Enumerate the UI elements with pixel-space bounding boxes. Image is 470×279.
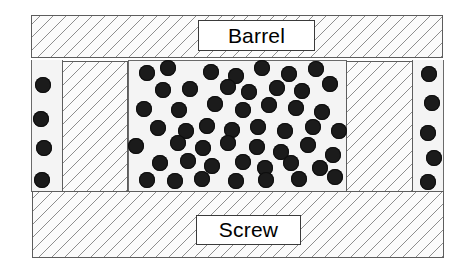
screw-label-text: Screw (219, 218, 278, 242)
barrel-label-text: Barrel (228, 24, 285, 48)
pellet (249, 139, 265, 155)
pellet (314, 104, 330, 120)
pellet (152, 155, 168, 171)
pellet (235, 102, 251, 118)
pellet (283, 155, 299, 171)
pellet (36, 140, 52, 156)
pellet (331, 123, 347, 139)
pellet (199, 118, 215, 134)
pellet (160, 60, 176, 76)
extruder-cross-section-figure: Barrel Screw (0, 0, 470, 279)
pellet (203, 64, 219, 80)
pellet (254, 60, 270, 76)
pellet (291, 171, 307, 187)
pellet (167, 173, 183, 189)
barrel-label: Barrel (198, 20, 315, 51)
pellet (180, 153, 196, 169)
pellet (136, 101, 152, 117)
pellet (281, 66, 297, 82)
pellet (34, 172, 50, 188)
pellet (220, 79, 236, 95)
pellet (194, 171, 210, 187)
pellet (327, 169, 343, 185)
pellet (305, 119, 321, 135)
pellet (426, 150, 442, 166)
pellet (128, 138, 144, 154)
pellet (171, 102, 187, 118)
pellet (182, 81, 198, 97)
pellet (150, 120, 166, 136)
screw-label: Screw (196, 215, 301, 245)
pellet (294, 83, 310, 99)
pellet (250, 119, 266, 135)
pellet (424, 95, 440, 111)
pellet (155, 82, 171, 98)
pellet (420, 125, 436, 141)
pellet (300, 137, 316, 153)
pellet (308, 61, 324, 77)
pellet (220, 135, 236, 151)
pellet (277, 123, 293, 139)
pellet (261, 97, 277, 113)
pellet (207, 96, 223, 112)
pellet (420, 174, 436, 190)
pellet (170, 135, 186, 151)
pellet (269, 80, 285, 96)
pellet (312, 160, 328, 176)
pellet (241, 84, 257, 100)
pellet (33, 111, 49, 127)
pellet (288, 100, 304, 116)
pellet (421, 66, 437, 82)
pellet (139, 172, 155, 188)
pellet (35, 77, 51, 93)
pellet (325, 147, 341, 163)
pellet (258, 172, 274, 188)
pellet (228, 173, 244, 189)
pellet (235, 154, 251, 170)
pellet (139, 65, 155, 81)
pellet (195, 140, 211, 156)
pellet (322, 76, 338, 92)
